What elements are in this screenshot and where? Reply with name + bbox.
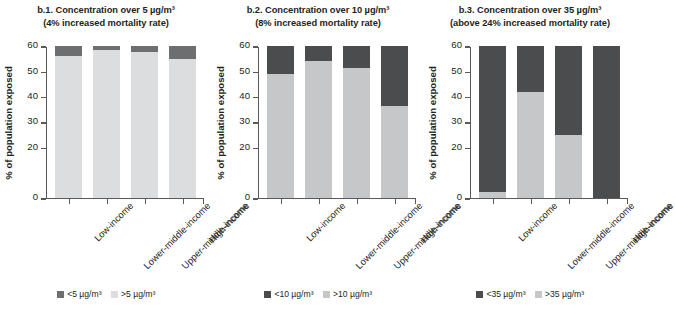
bar-segment-above-threshold	[169, 59, 196, 198]
y-tick: 40	[41, 97, 46, 98]
y-tick: 60	[41, 46, 46, 47]
bar-b-1-0	[55, 46, 82, 198]
y-tick-label: 40	[239, 90, 250, 101]
y-tick-label: 50	[451, 65, 462, 76]
x-axis-tick-labels: Low-incomeLower-middle-incomeUpper-middl…	[258, 200, 428, 280]
y-tick: 30	[465, 122, 470, 123]
legend-swatch-icon	[476, 291, 483, 298]
plot-area: 02030405060	[470, 47, 628, 199]
bar-segment-above-threshold	[305, 61, 332, 198]
y-tick: 30	[41, 122, 46, 123]
legend: <5 µg/m³>5 µg/m³	[0, 289, 212, 299]
bar-b-2-2	[343, 46, 370, 198]
panel-title-main: b.2. Concentration over 10 µg/m³	[247, 5, 390, 15]
y-tick-label: 50	[27, 65, 38, 76]
bar-segment-above-threshold	[479, 192, 506, 198]
legend: <10 µg/m³>10 µg/m³	[212, 289, 424, 299]
legend-swatch-icon	[323, 291, 330, 298]
bar-segment-below-threshold	[593, 46, 620, 198]
bar-segment-above-threshold	[267, 74, 294, 198]
plot-area: 02030405060	[258, 47, 416, 199]
legend-label: >5 µg/m³	[121, 289, 155, 299]
bar-segment-above-threshold	[93, 50, 120, 198]
y-tick: 20	[253, 148, 258, 149]
y-tick: 60	[253, 46, 258, 47]
bar-segment-below-threshold	[305, 46, 332, 61]
legend-item: >35 µg/m³	[535, 289, 585, 299]
x-tick-label: Low-income	[515, 200, 559, 244]
legend-swatch-icon	[111, 291, 118, 298]
y-tick-label: 60	[27, 39, 38, 50]
bar-segment-above-threshold	[131, 52, 158, 198]
y-tick: 50	[253, 72, 258, 73]
bar-b-2-3	[381, 46, 408, 198]
panel-b-1: b.1. Concentration over 5 µg/m³(4% incre…	[0, 0, 212, 319]
bar-b-1-2	[131, 46, 158, 198]
y-tick-label: 20	[27, 141, 38, 152]
y-tick-label: 20	[451, 141, 462, 152]
bar-b-3-2	[555, 46, 582, 198]
panel-title-main: b.1. Concentration over 5 µg/m³	[37, 5, 175, 15]
bar-segment-above-threshold	[55, 56, 82, 198]
y-tick: 60	[465, 46, 470, 47]
panel-title: b.3. Concentration over 35 µg/m³(above 2…	[424, 4, 636, 29]
bar-segment-below-threshold	[93, 46, 120, 50]
legend-item: >10 µg/m³	[323, 289, 373, 299]
bar-segment-below-threshold	[131, 46, 158, 52]
y-axis-label: % of population exposed	[426, 47, 439, 199]
panel-title: b.1. Concentration over 5 µg/m³(4% incre…	[0, 4, 212, 29]
x-tick-label: Lower-middle-income	[565, 200, 636, 271]
bar-b-3-3	[593, 46, 620, 198]
x-axis-tick-labels: Low-incomeLower-middle-incomeUpper-middl…	[46, 200, 216, 280]
legend-swatch-icon	[57, 291, 64, 298]
legend-item: <35 µg/m³	[476, 289, 526, 299]
panel-title: b.2. Concentration over 10 µg/m³(8% incr…	[212, 4, 424, 29]
bar-segment-above-threshold	[381, 106, 408, 198]
plot-area: 02030405060	[46, 47, 204, 199]
y-tick-label: 30	[451, 115, 462, 126]
y-tick-label: 30	[27, 115, 38, 126]
bar-segment-below-threshold	[169, 46, 196, 59]
bar-b-1-3	[169, 46, 196, 198]
legend-label: >35 µg/m³	[545, 289, 584, 299]
y-tick: 30	[253, 122, 258, 123]
y-tick-label: 30	[239, 115, 250, 126]
bar-segment-above-threshold	[343, 68, 370, 198]
y-tick-label: 0	[457, 191, 462, 202]
bar-b-1-1	[93, 46, 120, 198]
y-tick: 40	[465, 97, 470, 98]
bar-segment-below-threshold	[381, 46, 408, 106]
y-tick: 20	[41, 148, 46, 149]
bar-b-2-1	[305, 46, 332, 198]
panel-b-3: b.3. Concentration over 35 µg/m³(above 2…	[424, 0, 636, 319]
legend-item: >5 µg/m³	[111, 289, 156, 299]
bar-segment-below-threshold	[517, 46, 544, 92]
bar-b-3-1	[517, 46, 544, 198]
bar-segment-below-threshold	[555, 46, 582, 135]
y-tick: 20	[465, 148, 470, 149]
legend-item: <5 µg/m³	[57, 289, 102, 299]
bar-segment-below-threshold	[479, 46, 506, 192]
legend-label: >10 µg/m³	[333, 289, 372, 299]
bar-segment-below-threshold	[343, 46, 370, 68]
y-tick-label: 20	[239, 141, 250, 152]
y-axis-line	[258, 47, 259, 199]
y-tick-label: 0	[245, 191, 250, 202]
y-tick-label: 40	[451, 90, 462, 101]
legend-label: <35 µg/m³	[486, 289, 525, 299]
y-axis-label: % of population exposed	[2, 47, 15, 199]
x-tick-label: Lower-middle-income	[353, 200, 424, 271]
legend-label: <5 µg/m³	[67, 289, 101, 299]
y-tick-label: 0	[33, 191, 38, 202]
bar-segment-above-threshold	[555, 135, 582, 198]
y-tick: 40	[253, 97, 258, 98]
bar-b-2-0	[267, 46, 294, 198]
panel-b-2: b.2. Concentration over 10 µg/m³(8% incr…	[212, 0, 424, 319]
y-tick-label: 50	[239, 65, 250, 76]
x-tick-label: Low-income	[91, 200, 135, 244]
legend-swatch-icon	[535, 291, 542, 298]
panel-title-subtitle: (above 24% increased mortality rate)	[424, 17, 636, 30]
x-axis-tick-labels: Low-incomeLower-middle-incomeUpper-middl…	[470, 200, 640, 280]
x-tick-label: Low-income	[303, 200, 347, 244]
